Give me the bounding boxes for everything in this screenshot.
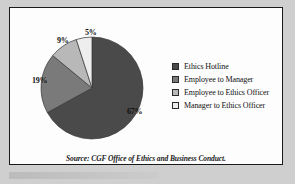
legend-item-label: Manager to Ethics Officer [184,101,265,110]
legend-item-manager-to-ethics-officer: Manager to Ethics Officer [172,99,290,112]
pie-label-19: 19% [32,76,47,85]
pie-label-9: 9% [57,36,69,45]
legend-swatch-icon [172,102,179,109]
source-note: Source: CGF Office of Ethics and Busines… [66,154,226,163]
pie-svg [40,36,144,140]
legend-item-label: Employee to Manager [184,75,253,84]
pie-chart [32,28,152,140]
pie-slice-group [41,37,143,139]
legend-item-employee-to-manager: Employee to Manager [172,73,290,86]
pie-label-5: 5% [85,28,97,37]
figure-frame: 67% 19% 9% 5% Ethics Hotline Employee to… [9,7,283,165]
legend-item-label: Employee to Ethics Officer [184,88,269,97]
legend-swatch-icon [172,76,179,83]
legend-item-employee-to-ethics-officer: Employee to Ethics Officer [172,86,290,99]
pie-label-67: 67% [127,107,142,116]
legend-swatch-icon [172,63,179,70]
legend-swatch-icon [172,89,179,96]
legend-item-label: Ethics Hotline [184,62,229,71]
figure-root: 67% 19% 9% 5% Ethics Hotline Employee to… [0,0,295,184]
chart-legend: Ethics Hotline Employee to Manager Emplo… [172,60,290,112]
legend-item-ethics-hotline: Ethics Hotline [172,60,290,73]
page-artifact [9,172,159,179]
